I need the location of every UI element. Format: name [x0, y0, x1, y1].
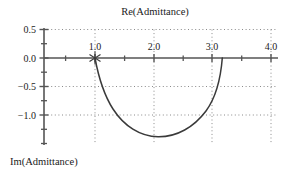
ytick-label-3: −1.0 — [18, 110, 36, 121]
chart-container: 0.5 0.0 −0.5 −1.0 1.0 2.0 3.0 4.0 Re(Adm… — [0, 0, 285, 173]
xtick-label-1: 2.0 — [148, 41, 161, 52]
xtick-label-3: 4.0 — [265, 41, 278, 52]
xtick-label-2: 3.0 — [206, 41, 219, 52]
xtick-label-0: 1.0 — [89, 41, 102, 52]
ytick-label-0: 0.5 — [24, 24, 37, 35]
ytick-label-1: 0.0 — [24, 53, 37, 64]
y-axis-label: Im(Admittance) — [10, 156, 78, 168]
ytick-label-2: −0.5 — [18, 81, 36, 92]
admittance-plot-svg: 0.5 0.0 −0.5 −1.0 1.0 2.0 3.0 4.0 Re(Adm… — [0, 0, 285, 173]
chart-title: Re(Admittance) — [121, 6, 189, 18]
